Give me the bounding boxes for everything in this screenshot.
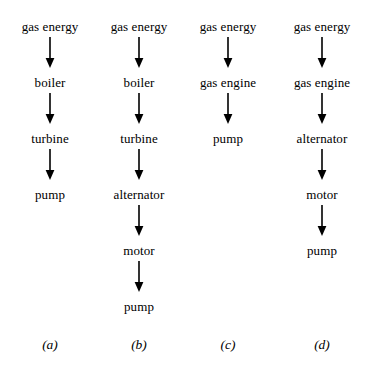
down-arrow-icon	[262, 149, 382, 181]
down-arrow-icon	[262, 37, 382, 69]
flow-node: motor	[262, 188, 382, 201]
subfigure-caption-d: (d)	[262, 338, 382, 352]
flow-node: alternator	[262, 132, 382, 145]
flow-node: pump	[262, 244, 382, 257]
energy-conversion-flowchart-figure: gas energyboilerturbinepump(a)gas energy…	[0, 0, 386, 376]
down-arrow-icon	[262, 205, 382, 237]
flow-node: gas energy	[262, 20, 382, 33]
flow-node: gas engine	[262, 76, 382, 89]
down-arrow-icon	[262, 93, 382, 125]
flow-column-d: gas energygas enginealternatormotorpump(…	[262, 0, 382, 376]
